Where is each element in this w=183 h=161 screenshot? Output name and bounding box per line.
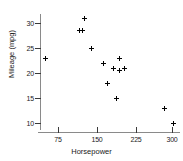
y-tick-label-10: 10 — [18, 120, 34, 127]
x-tick-label-300: 300 — [161, 136, 183, 143]
x-tick-mark-150 — [97, 127, 98, 133]
x-tick-label-75: 75 — [47, 136, 69, 143]
y-tick-label-20: 20 — [18, 70, 34, 77]
data-point — [105, 81, 110, 86]
y-tick-mark-25 — [35, 48, 41, 49]
data-point — [171, 121, 176, 126]
y-tick-label-30: 30 — [18, 20, 34, 27]
data-point — [114, 96, 119, 101]
x-tick-label-150: 150 — [86, 136, 108, 143]
scatter-plot-figure: 30 25 20 15 10 Mileage (mpg) 75 150 225 … — [0, 0, 183, 161]
data-point — [82, 16, 87, 21]
y-tick-mark-30 — [35, 23, 41, 24]
y-tick-label-30-wrap: 30 — [16, 20, 34, 27]
data-point — [122, 66, 127, 71]
data-point — [117, 56, 122, 61]
y-axis-line — [40, 14, 41, 130]
y-tick-label-25-wrap: 25 — [16, 45, 34, 52]
data-point — [89, 46, 94, 51]
x-tick-mark-300 — [172, 127, 173, 133]
y-tick-mark-10 — [35, 123, 41, 124]
data-point — [117, 68, 122, 73]
data-point — [162, 106, 167, 111]
x-tick-mark-75 — [58, 127, 59, 133]
data-point — [80, 28, 85, 33]
y-tick-mark-15 — [35, 98, 41, 99]
x-tick-label-225: 225 — [125, 136, 147, 143]
y-tick-label-20-wrap: 20 — [16, 70, 34, 77]
x-axis-title: Horsepower — [0, 148, 183, 156]
data-point — [101, 61, 106, 66]
y-tick-label-10-wrap: 10 — [16, 120, 34, 127]
y-tick-mark-20 — [35, 73, 41, 74]
data-point — [77, 28, 82, 33]
data-point — [111, 66, 116, 71]
y-axis-title: Mileage (mpg) — [8, 18, 16, 90]
x-tick-mark-225 — [136, 127, 137, 133]
data-point — [43, 56, 48, 61]
x-axis-line — [38, 132, 180, 133]
y-tick-label-25: 25 — [18, 45, 34, 52]
y-tick-label-15-wrap: 15 — [16, 95, 34, 102]
y-tick-label-15: 15 — [18, 95, 34, 102]
